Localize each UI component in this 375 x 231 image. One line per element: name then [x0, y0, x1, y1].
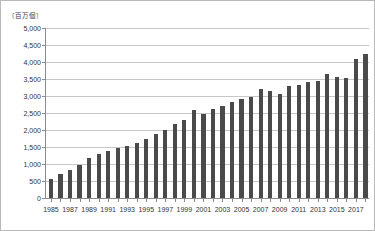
bar [344, 78, 348, 198]
gridline [45, 79, 369, 80]
x-axis-tick-mark [194, 199, 195, 202]
x-axis-tick-labels: 1985198719891991199319951997199920012003… [45, 206, 369, 218]
x-axis-tick-label: 2013 [310, 206, 326, 213]
x-axis-tick-label: 1989 [81, 206, 97, 213]
x-axis-tick-label: 1999 [177, 206, 193, 213]
x-axis-tick-mark [337, 199, 338, 202]
y-axis-unit-label: 〔百万個〕 [8, 10, 43, 20]
bar [87, 158, 91, 198]
bar-chart-figure: 〔百万個〕 5,0004,5004,0003,5003,0002,5002,00… [0, 0, 375, 231]
x-axis-tick-mark [213, 199, 214, 202]
bar [211, 109, 215, 198]
bar [144, 139, 148, 198]
x-axis-tick-mark [137, 199, 138, 202]
x-axis-tick-label: 2001 [196, 206, 212, 213]
bar [230, 102, 234, 198]
bar [182, 120, 186, 198]
y-axis-tick-marks [1, 28, 45, 198]
x-axis-tick-mark [80, 199, 81, 202]
x-axis-tick-label: 1985 [43, 206, 59, 213]
gridline [45, 96, 369, 97]
x-axis-tick-mark [222, 199, 223, 202]
x-axis-tick-label: 2005 [234, 206, 250, 213]
x-axis-tick-label: 1997 [158, 206, 174, 213]
x-axis-tick-mark [175, 199, 176, 202]
bar [316, 81, 320, 198]
x-axis-tick-mark [261, 199, 262, 202]
bar [297, 85, 301, 198]
gridline [45, 113, 369, 114]
bar [135, 143, 139, 198]
bar [363, 54, 367, 199]
x-axis-tick-mark [51, 199, 52, 202]
x-axis-tick-mark [299, 199, 300, 202]
x-axis-tick-mark [127, 199, 128, 202]
x-axis-tick-mark [242, 199, 243, 202]
bar [239, 99, 243, 198]
bar [97, 154, 101, 198]
bar [173, 124, 177, 198]
x-axis-tick-label: 2011 [291, 206, 306, 213]
x-axis-tick-mark [99, 199, 100, 202]
bar [49, 179, 53, 198]
x-axis-tick-mark [280, 199, 281, 202]
gridline [45, 147, 369, 148]
x-axis-tick-label: 1993 [119, 206, 135, 213]
bar [125, 146, 129, 198]
gridline [45, 28, 369, 29]
x-axis-tick-mark [156, 199, 157, 202]
x-axis-tick-label: 2009 [272, 206, 288, 213]
x-axis-tick-mark [203, 199, 204, 202]
y-axis-line [45, 28, 46, 198]
bar [201, 114, 205, 198]
x-axis-tick-label: 1991 [100, 206, 116, 213]
bar [259, 89, 263, 198]
x-axis-tick-mark [60, 199, 61, 202]
bar [354, 59, 358, 198]
plot-area [45, 28, 369, 198]
bar [163, 130, 167, 198]
bar [287, 86, 291, 198]
x-axis-tick-label: 2017 [348, 206, 364, 213]
x-axis-tick-mark [118, 199, 119, 202]
x-axis-tick-label: 1987 [62, 206, 78, 213]
bar [278, 94, 282, 198]
x-axis-tick-mark [365, 199, 366, 202]
bar [306, 82, 310, 198]
x-axis-tick-mark [251, 199, 252, 202]
bar [192, 110, 196, 198]
x-axis-tick-mark [165, 199, 166, 202]
bar [58, 174, 62, 198]
bar [249, 97, 253, 198]
gridline [45, 62, 369, 63]
x-axis-tick-label: 2007 [253, 206, 269, 213]
x-axis-tick-label: 2015 [329, 206, 345, 213]
gridline [45, 164, 369, 165]
x-axis-tick-mark [327, 199, 328, 202]
x-axis-tick-mark [270, 199, 271, 202]
x-axis-tick-mark [89, 199, 90, 202]
x-axis-tick-mark [289, 199, 290, 202]
x-axis-tick-mark [146, 199, 147, 202]
bar [68, 170, 72, 198]
bar [335, 77, 339, 198]
bar [77, 165, 81, 198]
x-axis-tick-marks [45, 199, 369, 203]
x-axis-tick-mark [308, 199, 309, 202]
gridline [45, 45, 369, 46]
x-axis-tick-mark [184, 199, 185, 202]
gridline [45, 181, 369, 182]
bar [220, 106, 224, 198]
x-axis-tick-label: 2003 [215, 206, 231, 213]
x-axis-tick-mark [356, 199, 357, 202]
bar [116, 148, 120, 198]
x-axis-tick-mark [232, 199, 233, 202]
gridline [45, 130, 369, 131]
x-axis-tick-label: 1995 [138, 206, 154, 213]
bar [106, 151, 110, 198]
x-axis-tick-mark [346, 199, 347, 202]
bar [154, 134, 158, 198]
bar [325, 74, 329, 198]
bar [268, 91, 272, 198]
x-axis-tick-mark [318, 199, 319, 202]
